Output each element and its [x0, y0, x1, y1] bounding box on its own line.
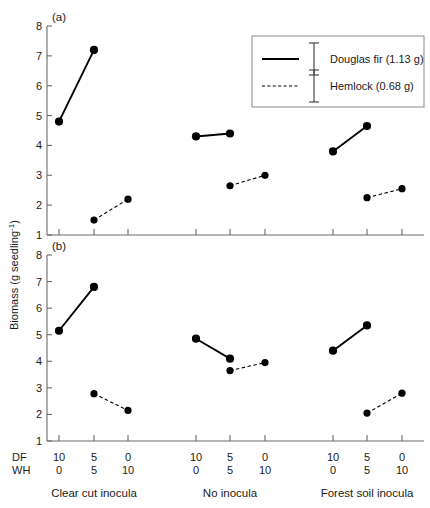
panel-label: (a)	[52, 11, 66, 23]
y-tick-label: 1	[36, 229, 42, 241]
data-point	[363, 321, 371, 329]
y-tick-label: 3	[36, 382, 42, 394]
data-point	[55, 117, 63, 125]
y-tick-label: 6	[36, 302, 42, 314]
x-tick-label-df: 10	[53, 451, 65, 463]
x-tick-label-df: 10	[190, 451, 202, 463]
data-point	[226, 367, 233, 374]
series-line-douglas-fir	[59, 50, 94, 122]
series-line-douglas-fir	[59, 287, 94, 331]
group-label: Forest soil inocula	[321, 487, 414, 499]
biomass-chart: (a)12345678(b)12345678Biomass (g seedlin…	[0, 0, 430, 508]
series-line-hemlock	[94, 394, 128, 411]
series-line-hemlock	[367, 189, 402, 198]
figure-container: (a)12345678(b)12345678Biomass (g seedlin…	[0, 0, 430, 508]
y-tick-label: 1	[36, 435, 42, 447]
panel-label: (b)	[52, 240, 66, 252]
series-line-douglas-fir	[196, 339, 230, 359]
legend-label: Douglas fir (1.13 g)	[330, 53, 424, 65]
data-point	[90, 46, 98, 54]
data-point	[363, 194, 370, 201]
legend: Douglas fir (1.13 g)Hemlock (0.68 g)	[252, 36, 424, 107]
x-tick-label-wh: 0	[56, 464, 62, 476]
data-point	[363, 122, 371, 130]
series-line-douglas-fir	[333, 126, 367, 151]
group-label: Clear cut inocula	[51, 487, 137, 499]
data-point	[90, 283, 98, 291]
x-axis-categories: DFWH100550101005501010055010Clear cut in…	[12, 451, 414, 499]
y-tick-label: 8	[36, 249, 42, 261]
data-point	[192, 132, 200, 140]
x-tick-label-df: 0	[399, 451, 405, 463]
data-point	[226, 129, 234, 137]
y-tick-label: 2	[36, 408, 42, 420]
row-label-df: DF	[12, 451, 27, 463]
x-tick-label-df: 5	[364, 451, 370, 463]
data-point	[55, 327, 63, 335]
y-tick-label: 7	[36, 50, 42, 62]
data-point	[398, 185, 405, 192]
data-point	[90, 390, 97, 397]
x-tick-label-wh: 5	[364, 464, 370, 476]
group-label: No inocula	[203, 487, 258, 499]
data-point	[226, 355, 234, 363]
data-point	[124, 196, 131, 203]
row-label-wh: WH	[12, 464, 30, 476]
data-point	[363, 410, 370, 417]
y-tick-label: 2	[36, 199, 42, 211]
data-point	[329, 347, 337, 355]
series-line-hemlock	[230, 175, 265, 185]
x-tick-label-df: 5	[227, 451, 233, 463]
x-tick-label-wh: 0	[193, 464, 199, 476]
x-tick-label-df: 0	[125, 451, 131, 463]
legend-label: Hemlock (0.68 g)	[330, 80, 414, 92]
x-tick-label-wh: 5	[227, 464, 233, 476]
y-tick-label: 4	[36, 355, 42, 367]
data-point	[124, 407, 131, 414]
x-tick-label-wh: 10	[122, 464, 134, 476]
data-point	[398, 390, 405, 397]
x-tick-label-wh: 5	[91, 464, 97, 476]
data-point	[261, 172, 268, 179]
y-tick-label: 5	[36, 110, 42, 122]
series-line-douglas-fir	[333, 325, 367, 350]
data-point	[226, 182, 233, 189]
series-line-hemlock	[230, 363, 265, 371]
y-axis-label: Biomass (g seedling-1)	[7, 220, 21, 330]
y-axis-label-text: Biomass (g seedling-1)	[7, 220, 21, 330]
y-tick-label: 8	[36, 20, 42, 32]
panel-b: (b)12345678	[36, 240, 424, 447]
data-point	[329, 147, 337, 155]
y-tick-label: 5	[36, 329, 42, 341]
y-tick-label: 6	[36, 80, 42, 92]
data-point	[90, 216, 97, 223]
y-tick-label: 4	[36, 139, 42, 151]
data-point	[261, 359, 268, 366]
y-tick-label: 3	[36, 169, 42, 181]
x-tick-label-wh: 10	[259, 464, 271, 476]
series-line-hemlock	[94, 199, 128, 220]
data-point	[192, 335, 200, 343]
x-tick-label-df: 10	[327, 451, 339, 463]
x-tick-label-df: 0	[262, 451, 268, 463]
series-line-hemlock	[367, 393, 402, 413]
x-tick-label-df: 5	[91, 451, 97, 463]
series-line-douglas-fir	[196, 133, 230, 136]
y-tick-label: 7	[36, 276, 42, 288]
legend-box	[252, 36, 424, 107]
x-tick-label-wh: 10	[396, 464, 408, 476]
x-tick-label-wh: 0	[330, 464, 336, 476]
